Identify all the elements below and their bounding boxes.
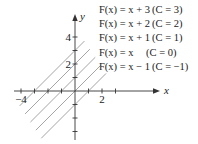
legend-equation: F(x) = x xyxy=(99,47,134,59)
legend-equation: F(x) = x − 1 xyxy=(99,61,150,73)
x-axis-label: x xyxy=(163,84,169,96)
x-axis-arrow-icon xyxy=(153,88,160,93)
y-axis-label: y xyxy=(79,10,85,22)
series-line xyxy=(36,65,101,130)
y-tick-label: 2 xyxy=(66,58,72,70)
legend-constant: (C = 0) xyxy=(146,47,177,59)
legend-equation: F(x) = x + 2 xyxy=(99,18,150,30)
series-line xyxy=(25,49,90,114)
legend-equation: F(x) = x + 3 xyxy=(99,4,150,16)
series-line xyxy=(30,57,95,122)
legend-constant: (C = −1) xyxy=(152,61,189,73)
legend-constant: (C = 2) xyxy=(152,18,183,30)
y-tick-label: 4 xyxy=(66,31,72,43)
x-tick-label: −4 xyxy=(15,93,27,105)
chart: −4242 x y F(x) = x + 3(C = 3)F(x) = x + … xyxy=(0,0,198,144)
legend-equation: F(x) = x + 1 xyxy=(99,32,150,44)
y-axis-arrow-icon xyxy=(72,14,77,21)
series-line xyxy=(41,73,106,138)
legend-constant: (C = 1) xyxy=(152,32,183,44)
x-tick-label: 2 xyxy=(99,93,105,105)
tick-labels: −4242 xyxy=(15,31,105,105)
legend: F(x) = x + 3(C = 3)F(x) = x + 2(C = 2)F(… xyxy=(99,4,189,73)
legend-constant: (C = 3) xyxy=(152,4,183,16)
family-of-lines xyxy=(20,41,106,138)
